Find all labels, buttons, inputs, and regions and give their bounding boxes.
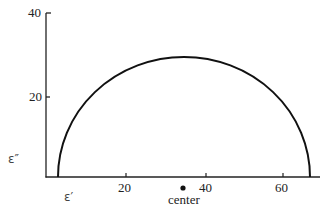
y-tick-label-20: 20 <box>29 89 42 104</box>
x-tick-label-20: 20 <box>118 180 131 195</box>
x-tick-label-40: 40 <box>199 180 212 195</box>
semicircle-curve <box>58 57 310 177</box>
x-tick-label-60: 60 <box>275 180 288 195</box>
y-tick-label-40: 40 <box>28 5 41 20</box>
x-axis-label: ε′ <box>64 190 73 204</box>
cole-cole-chart: 40 20 20 40 60 ε″ ε′ center <box>0 0 326 208</box>
center-dot <box>180 185 185 190</box>
y-axis-label: ε″ <box>8 152 19 166</box>
center-label: center <box>168 192 200 207</box>
